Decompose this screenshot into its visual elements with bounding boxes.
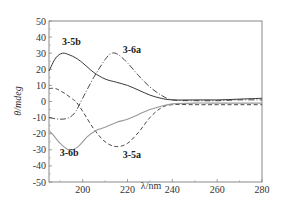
y-tick-label: 0 [41,96,46,107]
curve-labels: 3-5b3-6a3-5a3-6b [60,36,141,160]
y-axis-title: θ/mdeg [12,86,23,115]
x-tick-label: 200 [75,184,90,195]
x-tick-label: 280 [255,184,270,195]
cd-spectrum-chart: 50403020100-10-20-30-40-50 2002202402602… [0,0,283,214]
curves [49,53,262,150]
x-tick-label: 260 [210,184,225,195]
y-tick-label: 50 [36,16,46,27]
curve-label-3-5b: 3-5b [62,36,81,47]
y-tick-label: 20 [36,64,46,75]
y-tick-label: -10 [33,112,46,123]
x-tick-label: 240 [165,184,180,195]
curve-3-6b [49,103,262,150]
curve-label-3-6b: 3-6b [60,147,79,158]
x-axis-title: λ/nm [141,180,162,191]
curve-label-3-5a: 3-5a [123,149,141,160]
x-axis-ticks: 200220240260280 [60,179,269,195]
y-tick-label: -30 [33,144,46,155]
y-tick-label: 30 [36,48,46,59]
y-tick-label: -50 [33,177,46,188]
x-tick-label: 220 [120,184,135,195]
y-tick-label: -40 [33,160,46,171]
y-tick-label: 10 [36,80,46,91]
curve-3-5b [49,53,262,100]
y-tick-label: 40 [36,32,46,43]
curve-label-3-6a: 3-6a [123,44,141,55]
y-tick-label: -20 [33,128,46,139]
